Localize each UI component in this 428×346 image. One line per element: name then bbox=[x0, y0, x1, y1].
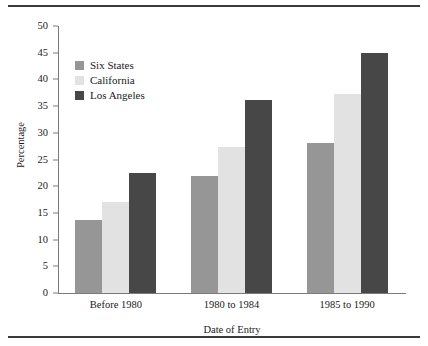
chart-figure: Percentage Date of Entry 051015202530354… bbox=[0, 0, 428, 346]
legend-item[interactable]: California bbox=[75, 73, 145, 87]
y-axis-tick-label: 40 bbox=[38, 75, 49, 86]
bar bbox=[334, 94, 361, 293]
y-axis-tick-label: 50 bbox=[38, 21, 49, 32]
y-axis-tick: 15 bbox=[53, 212, 58, 213]
x-axis-title: Date of Entry bbox=[58, 324, 406, 335]
legend-swatch-icon bbox=[75, 76, 84, 85]
y-axis-tick: 50 bbox=[53, 26, 58, 27]
legend-label: Six States bbox=[90, 60, 134, 71]
x-axis-line bbox=[58, 293, 406, 294]
y-axis-tick: 30 bbox=[53, 132, 58, 133]
bar bbox=[129, 173, 156, 293]
y-axis-tick-label: 45 bbox=[38, 48, 49, 59]
x-axis-tick-label: Before 1980 bbox=[56, 299, 176, 310]
y-axis-tick: 45 bbox=[53, 52, 58, 53]
chart-legend: Six StatesCaliforniaLos Angeles bbox=[75, 58, 145, 103]
y-axis-tick-label: 10 bbox=[38, 235, 49, 246]
legend-item[interactable]: Los Angeles bbox=[75, 88, 145, 102]
y-axis-tick-label: 0 bbox=[43, 288, 48, 299]
y-axis-tick-label: 15 bbox=[38, 208, 49, 219]
legend-label: California bbox=[90, 75, 135, 86]
figure-top-rule bbox=[8, 5, 420, 7]
y-axis-tick: 40 bbox=[53, 79, 58, 80]
y-axis-tick: 25 bbox=[53, 159, 58, 160]
bar bbox=[191, 176, 218, 293]
y-axis-tick-label: 5 bbox=[43, 262, 48, 273]
bar bbox=[218, 147, 245, 293]
x-axis-tick-label: 1985 to 1990 bbox=[287, 299, 407, 310]
y-axis-title: Percentage bbox=[15, 85, 26, 205]
y-axis-tick: 0 bbox=[53, 293, 58, 294]
y-axis-tick-label: 35 bbox=[38, 101, 49, 112]
legend-label: Los Angeles bbox=[90, 90, 145, 101]
figure-bottom-rule bbox=[8, 336, 420, 338]
y-axis-tick-label: 25 bbox=[38, 155, 49, 166]
y-axis-tick-label: 30 bbox=[38, 128, 49, 139]
bar bbox=[361, 53, 388, 293]
bar bbox=[102, 202, 129, 293]
bar bbox=[75, 220, 102, 293]
legend-swatch-icon bbox=[75, 91, 84, 100]
y-axis-tick-label: 20 bbox=[38, 181, 49, 192]
y-axis-tick: 5 bbox=[53, 266, 58, 267]
legend-item[interactable]: Six States bbox=[75, 58, 145, 72]
legend-swatch-icon bbox=[75, 61, 84, 70]
bar bbox=[307, 143, 334, 293]
y-axis-tick: 20 bbox=[53, 186, 58, 187]
y-axis-tick: 35 bbox=[53, 106, 58, 107]
bar bbox=[245, 100, 272, 293]
x-axis-tick-label: 1980 to 1984 bbox=[172, 299, 292, 310]
y-axis-tick: 10 bbox=[53, 239, 58, 240]
